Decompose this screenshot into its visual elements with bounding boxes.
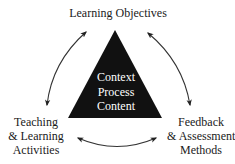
node-label-line: Activities (2, 143, 70, 157)
arrow-top-right (148, 33, 190, 105)
triangle-center-text: Context Process Content (86, 70, 146, 114)
node-label-line: & Assessment (167, 129, 235, 143)
node-label-line: Learning Objectives (68, 6, 168, 20)
node-teaching-learning-activities: Teaching & Learning Activities (2, 115, 70, 157)
arrow-top-left (47, 32, 86, 105)
arrow-bottom (78, 138, 156, 147)
center-line-content: Content (86, 99, 146, 114)
node-label-line: & Learning (2, 129, 70, 143)
node-label-line: Methods (167, 143, 235, 157)
center-line-process: Process (86, 85, 146, 100)
node-feedback-assessment-methods: Feedback & Assessment Methods (167, 115, 235, 157)
node-learning-objectives: Learning Objectives (68, 6, 168, 20)
center-line-context: Context (86, 70, 146, 85)
node-label-line: Feedback (167, 115, 235, 129)
node-label-line: Teaching (2, 115, 70, 129)
